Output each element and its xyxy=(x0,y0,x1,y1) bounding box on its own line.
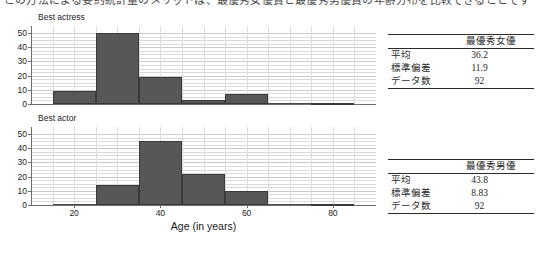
table-row: 標準偏差11.9 xyxy=(388,62,534,75)
table-header-best-actress: 最優秀女優 xyxy=(445,35,534,49)
y-tick-mark xyxy=(28,148,31,149)
stat-value: 11.9 xyxy=(445,62,534,75)
y-tick-label: 30 xyxy=(0,158,27,166)
stat-label: データ数 xyxy=(388,200,445,214)
histogram-bar xyxy=(139,141,182,205)
histogram-bar xyxy=(96,33,139,104)
gridline-vertical xyxy=(53,127,54,205)
histogram-bar xyxy=(96,185,139,205)
stat-value: 43.8 xyxy=(445,174,534,188)
top-caption-strip: この方法による要約統計量のメリットは、最優秀女優賞と最優秀男優賞の年齢分布を比較… xyxy=(0,0,539,9)
y-tick-label: 10 xyxy=(0,187,27,195)
histogram-bar xyxy=(139,77,182,104)
table-header-row: 最優秀男優 xyxy=(388,160,534,174)
y-tick-label: 20 xyxy=(0,72,27,80)
table-row: 標準偏差8.83 xyxy=(388,187,534,200)
histogram-bar xyxy=(268,204,311,206)
y-tick-mark xyxy=(28,134,31,135)
chart-title-best-actress: Best actress xyxy=(38,12,85,22)
table-row: 平均36.2 xyxy=(388,49,534,63)
y-tick-mark xyxy=(28,33,31,34)
figure-root: この方法による要約統計量のメリットは、最優秀女優賞と最優秀男優賞の年齢分布を比較… xyxy=(0,0,539,256)
gridline-vertical xyxy=(290,26,291,104)
y-tick-mark xyxy=(28,162,31,163)
histogram-bar xyxy=(182,174,225,205)
top-caption-text: この方法による要約統計量のメリットは、最優秀女優賞と最優秀男優賞の年齢分布を比較… xyxy=(4,0,530,7)
stat-value: 92 xyxy=(445,200,534,214)
y-tick-mark xyxy=(28,90,31,91)
gridline-vertical xyxy=(268,127,269,205)
gridline-vertical xyxy=(182,26,183,104)
stat-label: 標準偏差 xyxy=(388,62,445,75)
table-header-row: 最優秀女優 xyxy=(388,35,534,49)
stat-value: 8.83 xyxy=(445,187,534,200)
x-tick-mark xyxy=(74,205,75,208)
gridline-vertical xyxy=(311,127,312,205)
gridline-vertical xyxy=(354,26,355,104)
chart-title-best-actor: Best actor xyxy=(38,113,76,123)
table-row: データ数92 xyxy=(388,200,534,214)
y-axis-line xyxy=(31,127,32,206)
table-header-best-actor: 最優秀男優 xyxy=(445,160,534,174)
x-tick-mark xyxy=(160,205,161,208)
y-axis-line xyxy=(31,26,32,105)
x-tick-label: 80 xyxy=(318,208,348,218)
y-tick-label: 20 xyxy=(0,173,27,181)
gridline-vertical xyxy=(247,26,248,104)
y-tick-mark xyxy=(28,191,31,192)
stat-value: 92 xyxy=(445,75,534,89)
gridline-vertical xyxy=(333,127,334,205)
histogram-bar xyxy=(182,100,225,104)
x-tick-label: 40 xyxy=(145,208,175,218)
y-tick-label: 10 xyxy=(0,86,27,94)
table-header-spacer xyxy=(388,35,445,49)
histogram-bar xyxy=(225,94,268,104)
chart-panel-best-actress: Best actress 01020304050 xyxy=(0,12,380,107)
y-tick-label: 40 xyxy=(0,144,27,152)
gridline-vertical xyxy=(225,26,226,104)
y-tick-label: 0 xyxy=(0,100,27,108)
histogram-bar xyxy=(225,191,268,205)
gridline-vertical xyxy=(204,26,205,104)
y-tick-label: 50 xyxy=(0,130,27,138)
y-tick-mark xyxy=(28,76,31,77)
stat-label: データ数 xyxy=(388,75,445,89)
stats-table-best-actor: 最優秀男優 平均43.8標準偏差8.83データ数92 xyxy=(388,159,534,214)
gridline-vertical xyxy=(354,127,355,205)
x-tick-label: 20 xyxy=(59,208,89,218)
y-tick-mark xyxy=(28,205,31,206)
stats-table-best-actress: 最優秀女優 平均36.2標準偏差11.9データ数92 xyxy=(388,34,534,89)
gridline-vertical xyxy=(268,26,269,104)
table-header-spacer xyxy=(388,160,445,174)
x-axis-label: Age (in years) xyxy=(31,220,376,232)
table-row: データ数92 xyxy=(388,75,534,89)
stat-label: 平均 xyxy=(388,174,445,188)
stat-label: 標準偏差 xyxy=(388,187,445,200)
stat-label: 平均 xyxy=(388,49,445,63)
gridline-vertical xyxy=(333,26,334,104)
histogram-bar xyxy=(311,103,354,105)
table-row: 平均43.8 xyxy=(388,174,534,188)
y-tick-mark xyxy=(28,177,31,178)
histogram-bar xyxy=(53,91,96,104)
gridline-vertical xyxy=(311,26,312,104)
x-tick-mark xyxy=(333,205,334,208)
x-tick-label: 60 xyxy=(232,208,262,218)
y-tick-label: 40 xyxy=(0,43,27,51)
gridline-vertical xyxy=(74,127,75,205)
y-tick-mark xyxy=(28,61,31,62)
chart-panel-best-actor: Best actor 01020304050 20406080 Age (in … xyxy=(0,113,380,233)
y-tick-mark xyxy=(28,104,31,105)
x-tick-mark xyxy=(247,205,248,208)
y-tick-label: 50 xyxy=(0,29,27,37)
y-tick-label: 30 xyxy=(0,57,27,65)
stat-value: 36.2 xyxy=(445,49,534,63)
histogram-bar xyxy=(268,103,311,105)
y-tick-mark xyxy=(28,47,31,48)
gridline-vertical xyxy=(290,127,291,205)
y-tick-label: 0 xyxy=(0,201,27,209)
